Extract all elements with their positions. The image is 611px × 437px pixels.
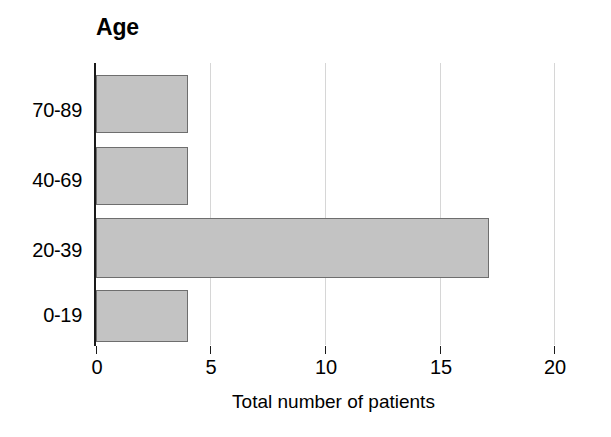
gridline-20 [554,63,555,345]
x-tick-label-0: 0 [91,356,102,379]
x-tick-label-10: 10 [315,356,337,379]
bar-40-69 [96,147,188,205]
y-axis-tick-labels: 70-89 40-69 20-39 0-19 [0,63,88,345]
x-tick-0 [96,346,97,354]
chart-title: Age [96,14,139,41]
bar-70-89 [96,75,188,133]
gridline-5 [210,63,211,345]
bar-0-19 [96,290,188,342]
x-axis-title: Total number of patients [0,391,611,413]
y-tick-label-0-19: 0-19 [43,304,82,327]
y-tick-label-70-89: 70-89 [32,99,82,122]
y-tick-label-20-39: 20-39 [32,239,82,262]
bar-20-39 [96,218,489,278]
x-tick-5 [210,346,211,354]
x-tick-label-15: 15 [430,356,452,379]
x-tick-10 [325,346,326,354]
gridline-15 [440,63,441,345]
gridline-10 [325,63,326,345]
y-tick-label-40-69: 40-69 [32,169,82,192]
x-tick-15 [440,346,441,354]
x-axis-title-text: Total number of patients [232,391,435,412]
x-tick-label-5: 5 [205,356,216,379]
x-tick-20 [554,346,555,354]
bar-chart: Age 70-89 40-69 20-39 0-19 0 5 10 15 20 … [0,0,611,437]
x-tick-label-20: 20 [544,356,566,379]
plot-area [96,63,554,345]
